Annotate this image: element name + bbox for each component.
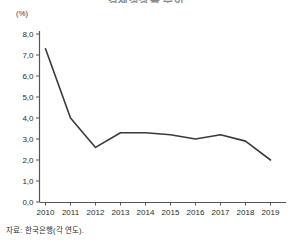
y-axis-tick-label: 6,0	[22, 72, 34, 81]
x-axis-tick-label: 2018	[237, 208, 255, 217]
x-axis-tick-label: 2015	[162, 208, 180, 217]
x-axis-tick-label: 2016	[187, 208, 205, 217]
data-series-line	[46, 49, 271, 160]
y-axis-tick-label: 5,0	[22, 93, 34, 102]
x-axis-tick-label: 2017	[212, 208, 230, 217]
y-axis-tick-label: 0,0	[22, 198, 34, 207]
y-axis-ticks: 0,01,02,03,04,05,06,07,08,0	[22, 30, 39, 207]
y-axis-tick-label: 2,0	[22, 156, 34, 165]
x-axis-tick-label: 2010	[37, 208, 55, 217]
source-note: 자료: 한국은행(각 연도).	[6, 224, 84, 235]
x-axis-ticks: 2010201120122013201420152016201720182019	[37, 202, 280, 217]
y-axis-tick-label: 4,0	[22, 114, 34, 123]
x-axis-tick-label: 2013	[112, 208, 130, 217]
chart-figure: 경제성장률 추이 (%) 0,01,02,03,04,05,06,07,08,0…	[0, 0, 292, 242]
y-axis-tick-label: 7,0	[22, 51, 34, 60]
y-axis-tick-label: 3,0	[22, 135, 34, 144]
y-axis-tick-label: 8,0	[22, 30, 34, 39]
y-axis-tick-label: 1,0	[22, 177, 34, 186]
x-axis-tick-label: 2011	[62, 208, 80, 217]
line-chart-plot: 0,01,02,03,04,05,06,07,08,0 201020112012…	[0, 0, 292, 242]
x-axis-tick-label: 2019	[262, 208, 280, 217]
x-axis-tick-label: 2012	[87, 208, 105, 217]
x-axis-tick-label: 2014	[137, 208, 155, 217]
